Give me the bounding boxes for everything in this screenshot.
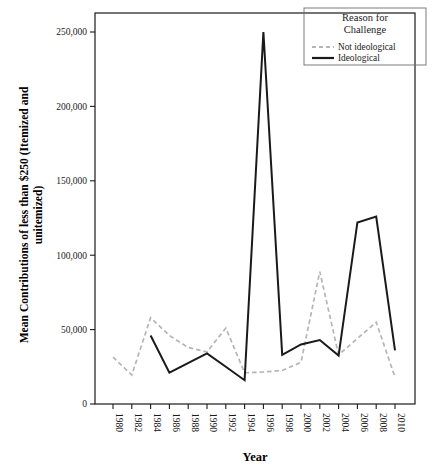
- legend: Reason for Challenge Not ideological Ide…: [304, 8, 426, 65]
- series-ideological: [151, 32, 395, 380]
- legend-label-not-ideological: Not ideological: [338, 42, 396, 52]
- x-tick-label: 1986: [171, 413, 181, 432]
- x-tick-label: 1998: [284, 413, 294, 432]
- x-tick-label: 1988: [190, 413, 200, 432]
- series-not-ideological: [113, 272, 395, 378]
- x-tick-label: 2002: [321, 413, 331, 432]
- x-tick-label: 1990: [208, 413, 218, 432]
- y-axis-title-line1: Mean Contributions of less than $250 (It…: [18, 86, 31, 343]
- x-tick-label: 2000: [302, 413, 312, 432]
- legend-title-line2: Challenge: [344, 24, 387, 35]
- line-chart: 050,000100,000150,000200,000250,000 1980…: [0, 0, 434, 470]
- x-tick-label: 1980: [114, 413, 124, 432]
- x-axis-ticks: [113, 404, 395, 409]
- x-tick-label: 1984: [152, 413, 162, 432]
- y-tick-label: 150,000: [56, 176, 87, 186]
- y-tick-label: 250,000: [56, 27, 87, 37]
- chart-figure: 050,000100,000150,000200,000250,000 1980…: [0, 0, 434, 470]
- plot-frame: [95, 13, 415, 404]
- y-axis-tick-labels: 050,000100,000150,000200,000250,000: [56, 27, 87, 409]
- x-tick-label: 2008: [378, 413, 388, 432]
- y-tick-label: 50,000: [61, 325, 87, 335]
- x-tick-label: 2010: [396, 413, 406, 432]
- y-axis-title-line2: unitemized): [32, 186, 45, 245]
- x-tick-label: 2006: [359, 413, 369, 432]
- y-axis-ticks: [90, 32, 95, 404]
- y-tick-label: 100,000: [56, 251, 87, 261]
- legend-title-line1: Reason for: [342, 12, 388, 23]
- y-tick-label: 200,000: [56, 102, 87, 112]
- x-tick-label: 2004: [340, 413, 350, 432]
- x-tick-label: 1996: [265, 413, 275, 432]
- x-tick-label: 1992: [227, 413, 237, 432]
- legend-label-ideological: Ideological: [338, 53, 380, 63]
- x-tick-label: 1982: [133, 413, 143, 432]
- x-axis-title: Year: [243, 450, 268, 464]
- x-axis-tick-labels: 1980198219841986198819901992199419961998…: [114, 413, 406, 432]
- y-tick-label: 0: [82, 399, 87, 409]
- x-tick-label: 1994: [246, 413, 256, 432]
